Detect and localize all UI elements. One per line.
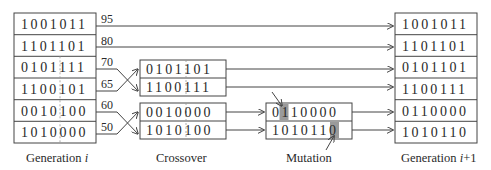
chromosome-gen-next-3: 0101101 — [402, 60, 469, 75]
chromosome-gen-i-3: 0101111 — [21, 60, 87, 75]
genetic-algorithm-diagram: 1001011 1101101 0101111 1100101 0010100 … — [0, 0, 491, 170]
fitness-5: 60 — [101, 98, 113, 112]
chromosome-gen-i-5: 0010100 — [21, 104, 88, 119]
crossover-child-2: 1100111 — [146, 80, 212, 95]
chromosome-gen-next-5: 0110000 — [402, 104, 469, 119]
crossover-child-4: 1010100 — [146, 123, 213, 138]
fitness-labels: 95 80 70 65 60 50 — [101, 12, 113, 134]
caption-generation-i: Generation i — [26, 151, 89, 165]
crossover-pair-2: 0010000 1010100 — [140, 103, 226, 139]
chromosome-gen-i-4: 1100101 — [21, 82, 88, 97]
mutation-child-2: 1010110 — [272, 123, 339, 138]
crossover-pair-1: 0101101 1100111 — [140, 60, 226, 96]
caption-crossover: Crossover — [156, 151, 208, 165]
mutation-pointer-2 — [326, 136, 334, 150]
crossover-child-3: 0010000 — [146, 105, 213, 120]
chromosome-gen-next-1: 1001011 — [402, 17, 469, 32]
fitness-2: 80 — [101, 34, 113, 48]
caption-generation-next: Generation i+1 — [401, 151, 476, 165]
caption-mutation: Mutation — [286, 151, 333, 165]
generation-i-table: 1001011 1101101 0101111 1100101 0010100 … — [14, 13, 96, 143]
fitness-6: 50 — [101, 120, 113, 134]
fitness-4: 65 — [101, 77, 113, 91]
mutation-table: 0110000 1010110 — [266, 92, 352, 150]
chromosome-gen-next-2: 1101101 — [402, 39, 468, 54]
generation-next-table: 1001011 1101101 0101101 1100111 0110000 … — [395, 13, 477, 143]
crossover-child-1: 0101101 — [146, 62, 213, 77]
chromosome-gen-i-1: 1001011 — [21, 17, 88, 32]
mutation-child-1: 0110000 — [272, 105, 339, 120]
chromosome-gen-next-6: 1010110 — [402, 125, 469, 140]
mutation-pointer-1 — [272, 92, 282, 106]
chromosome-gen-i-2: 1101101 — [21, 39, 87, 54]
chromosome-gen-i-6: 1010000 — [21, 125, 88, 140]
chromosome-gen-next-4: 1100111 — [402, 82, 468, 97]
fitness-3: 70 — [101, 55, 113, 69]
fitness-1: 95 — [101, 12, 113, 26]
